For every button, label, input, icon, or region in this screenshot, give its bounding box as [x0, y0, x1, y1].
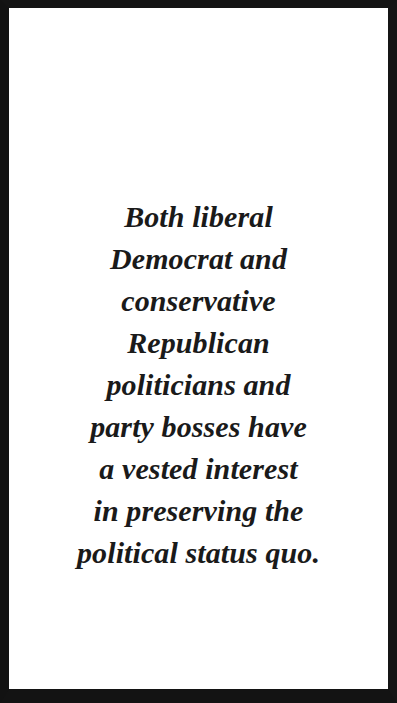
quote-line: politicians and	[57, 364, 340, 406]
quote-line: a vested interest	[57, 448, 340, 490]
quote-line: political status quo.	[57, 532, 340, 574]
quote-line: Both liberal	[57, 196, 340, 238]
quote-line: Democrat and	[57, 238, 340, 280]
quote-line: Republican	[57, 322, 340, 364]
quote-line: conservative	[57, 280, 340, 322]
page-frame: Both liberal Democrat and conservative R…	[0, 0, 397, 703]
quote-line: in preserving the	[57, 490, 340, 532]
page-surface: Both liberal Democrat and conservative R…	[9, 8, 388, 689]
quote-line: party bosses have	[57, 406, 340, 448]
pull-quote: Both liberal Democrat and conservative R…	[49, 196, 348, 574]
